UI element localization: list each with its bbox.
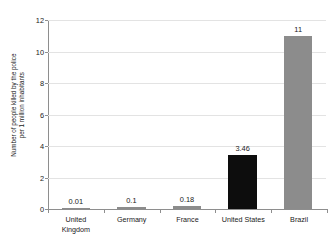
x-axis-category-label-line: Germany xyxy=(104,215,160,225)
x-tick-mark xyxy=(104,209,105,213)
x-tick-mark xyxy=(160,209,161,213)
y-tick-label: 0 xyxy=(40,205,44,214)
x-axis-category-label: UnitedKingdom xyxy=(48,215,104,234)
x-tick-mark xyxy=(271,209,272,213)
x-tick-mark xyxy=(215,209,216,213)
y-tick-label: 10 xyxy=(36,47,44,56)
x-axis-category-label-line: Kingdom xyxy=(48,225,104,235)
x-axis-category-label: Brazil xyxy=(271,215,327,234)
x-axis-ticks xyxy=(48,209,327,214)
x-axis-category-label-line: United States xyxy=(215,215,271,225)
bars-group: 0.010.10.183.4611 xyxy=(48,20,326,209)
y-axis-title-line-2: per 1 million inhabitants xyxy=(19,53,27,156)
bar-group: 0.01 xyxy=(48,20,104,209)
bar-group: 3.46 xyxy=(215,20,271,209)
bar-chart-figure: Number of people killed by the police pe… xyxy=(0,0,332,245)
bar-value-label: 0.18 xyxy=(180,195,194,204)
bar-value-label: 0.1 xyxy=(126,196,136,205)
x-axis-labels: UnitedKingdomGermanyFranceUnited StatesB… xyxy=(48,215,327,234)
y-axis-title: Number of people killed by the police pe… xyxy=(4,14,34,196)
bar-value-label: 0.01 xyxy=(69,197,83,206)
bar-group: 0.18 xyxy=(159,20,215,209)
bar-value-label: 11 xyxy=(294,25,302,34)
bar-group: 0.1 xyxy=(104,20,160,209)
x-axis-category-label: United States xyxy=(215,215,271,234)
bar-value-label: 3.46 xyxy=(235,144,249,153)
bar[interactable] xyxy=(228,155,256,209)
x-axis-category-label-line: Brazil xyxy=(271,215,327,225)
x-axis-category-label-line: United xyxy=(48,215,104,225)
bar-group: 11 xyxy=(270,20,326,209)
y-tick-label: 4 xyxy=(40,142,44,151)
y-tick-label: 2 xyxy=(40,173,44,182)
x-tick-mark xyxy=(327,209,328,213)
bar[interactable] xyxy=(284,36,312,209)
y-tick-label: 12 xyxy=(36,16,44,25)
x-axis-category-label: Germany xyxy=(104,215,160,234)
y-tick-label: 6 xyxy=(40,110,44,119)
y-tick-label: 8 xyxy=(40,79,44,88)
plot-area: 024681012 0.010.10.183.4611 xyxy=(48,20,326,209)
x-axis-category-label: France xyxy=(160,215,216,234)
x-tick-mark xyxy=(48,209,49,213)
x-axis-category-label-line: France xyxy=(160,215,216,225)
